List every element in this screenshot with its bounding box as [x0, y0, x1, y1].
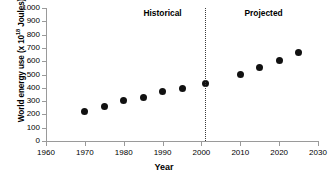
x-axis-title: Year — [0, 162, 328, 172]
data-point — [101, 103, 108, 110]
y-tick-label: 200 — [0, 110, 40, 118]
y-tick-label: 100 — [0, 124, 40, 132]
x-tick-label: 2020 — [259, 148, 299, 157]
x-tick — [279, 142, 280, 146]
x-axis-line — [46, 141, 319, 142]
data-point — [140, 94, 147, 101]
x-tick — [240, 142, 241, 146]
region-label-historical: Historical — [118, 8, 208, 18]
x-tick-label: 1970 — [65, 148, 105, 157]
y-tick-label: 900 — [0, 17, 40, 25]
data-point — [276, 57, 283, 64]
data-point — [120, 97, 127, 104]
y-tick-label: 400 — [0, 84, 40, 92]
data-point — [81, 108, 88, 115]
data-point — [237, 71, 244, 78]
y-tick-label: 300 — [0, 97, 40, 105]
plot-area: HistoricalProjected — [46, 8, 318, 141]
data-point — [159, 88, 166, 95]
x-tick-label: 1990 — [143, 148, 183, 157]
data-point — [295, 49, 302, 56]
y-tick-label: 700 — [0, 44, 40, 52]
x-tick-label: 1960 — [26, 148, 66, 157]
y-tick-label: 500 — [0, 71, 40, 79]
historical-projected-divider — [205, 8, 206, 141]
y-tick-label: 0 — [0, 137, 40, 145]
x-tick — [201, 142, 202, 146]
x-tick-label: 1980 — [104, 148, 144, 157]
x-tick-label: 2010 — [220, 148, 260, 157]
y-tick-label: 800 — [0, 31, 40, 39]
energy-use-chart: World energy use (x 1018 Joules) 0100200… — [0, 0, 328, 180]
x-tick — [163, 142, 164, 146]
x-tick-label: 2000 — [181, 148, 221, 157]
region-label-projected: Projected — [219, 8, 309, 18]
x-tick-label: 2030 — [298, 148, 328, 157]
data-point — [256, 64, 263, 71]
x-tick — [85, 142, 86, 146]
data-point — [179, 85, 186, 92]
y-tick-label: 1000 — [0, 4, 40, 12]
x-tick — [124, 142, 125, 146]
x-tick — [46, 142, 47, 146]
y-tick-label: 600 — [0, 57, 40, 65]
x-tick — [318, 142, 319, 146]
